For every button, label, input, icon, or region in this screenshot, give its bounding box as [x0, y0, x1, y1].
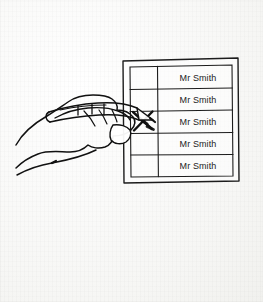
- ballot-row-label: Mr Smith: [159, 73, 237, 83]
- wrist-cuff-line: [17, 150, 96, 175]
- ballot-row-label: Mr Smith: [159, 161, 237, 171]
- ballot-row-label: Mr Smith: [159, 139, 237, 149]
- illustration-canvas: Mr Smith Mr Smith Mr Smith Mr Smith Mr S…: [0, 0, 263, 302]
- ballot-row-divider-4: [131, 155, 233, 156]
- finger-crease-3: [112, 110, 117, 122]
- ballot-row-label: Mr Smith: [159, 117, 237, 127]
- pen-end-cap: [46, 112, 50, 122]
- fingertip: [110, 125, 131, 144]
- hand-drawn-ballot-illustration: [0, 0, 263, 302]
- finger-crease-2: [99, 110, 107, 124]
- ballot-row-label: Mr Smith: [159, 95, 237, 105]
- finger-crease-1: [84, 111, 95, 126]
